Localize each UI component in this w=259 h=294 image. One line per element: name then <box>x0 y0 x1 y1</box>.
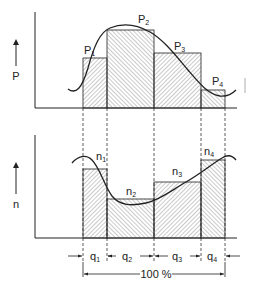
bar-n3 <box>154 182 201 238</box>
label-q1: q1 <box>90 250 100 263</box>
label-p1: P1 <box>84 44 95 57</box>
p-axis-label: P <box>12 70 19 82</box>
label-n3: n3 <box>172 165 182 178</box>
label-n2: n2 <box>126 185 136 198</box>
label-p4: P4 <box>212 75 223 88</box>
bar-p1 <box>83 58 107 108</box>
power-speed-distribution-diagram: P P1 P2 P3 P4 n n1 n2 n3 <box>0 0 259 294</box>
label-q3: q3 <box>172 250 182 263</box>
label-n4: n4 <box>204 145 214 158</box>
label-p2: P2 <box>138 13 149 26</box>
bar-p2 <box>107 30 154 108</box>
label-q2: q2 <box>122 250 132 263</box>
label-q4: q4 <box>207 250 217 263</box>
label-p3: P3 <box>174 40 185 53</box>
bottom-speed-chart: n n1 n2 n3 n4 <box>13 135 237 238</box>
n-axis-label: n <box>13 198 19 210</box>
label-total-100-percent: 100 % <box>140 268 171 280</box>
bar-p3 <box>154 53 201 108</box>
label-n1: n1 <box>96 150 106 163</box>
bar-p4 <box>201 90 225 108</box>
top-power-chart: P P1 P2 P3 P4 <box>12 12 245 108</box>
bar-n4 <box>201 160 225 238</box>
